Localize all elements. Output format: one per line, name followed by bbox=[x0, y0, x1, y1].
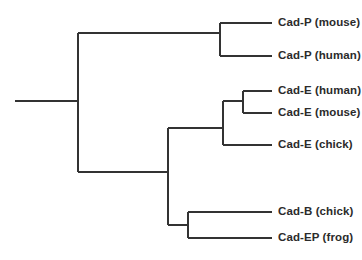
tip-label-cad-p-human: Cad-P (human) bbox=[278, 50, 361, 62]
tip-label-cad-b-chick: Cad-B (chick) bbox=[278, 206, 353, 218]
tip-label-cad-p-mouse: Cad-P (mouse) bbox=[278, 17, 360, 29]
tip-label-cad-ep-frog: Cad-EP (frog) bbox=[278, 232, 353, 244]
tree-branch-lines bbox=[0, 0, 362, 260]
tip-label-cad-e-human: Cad-E (human) bbox=[278, 85, 361, 97]
tip-label-cad-e-mouse: Cad-E (mouse) bbox=[278, 107, 360, 119]
tip-label-cad-e-chick: Cad-E (chick) bbox=[278, 139, 353, 151]
phylogenetic-tree-diagram: Cad-P (mouse)Cad-P (human)Cad-E (human)C… bbox=[0, 0, 362, 260]
